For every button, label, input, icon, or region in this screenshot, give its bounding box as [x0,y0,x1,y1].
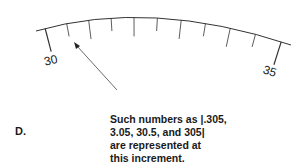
tick-label-35: 35 [261,63,278,81]
minor-tick [252,34,255,47]
minor-tick [157,18,158,31]
minor-tick [179,20,181,39]
caption-line: Such numbers as |.305, [110,113,227,126]
scale-ticks [45,17,281,64]
caption-line: are represented at [110,139,227,152]
tick-label-30: 30 [43,52,60,69]
pointer-arrow [77,46,117,90]
caption-line: this increment. [110,152,227,165]
major-tick [274,42,281,65]
caption-line: 3.05, 30.5, and 305| [110,126,227,139]
scale-arc [36,17,291,45]
minor-tick [203,23,205,36]
caption: Such numbers as |.305, 3.05, 30.5, and 3… [110,113,227,165]
minor-tick [111,18,112,31]
minor-tick [67,24,69,37]
major-tick [45,28,51,51]
slide-rule-scale: 30 35 [0,0,306,100]
minor-tick [89,20,91,39]
minor-tick [226,28,230,47]
panel-label: D. [15,125,26,137]
